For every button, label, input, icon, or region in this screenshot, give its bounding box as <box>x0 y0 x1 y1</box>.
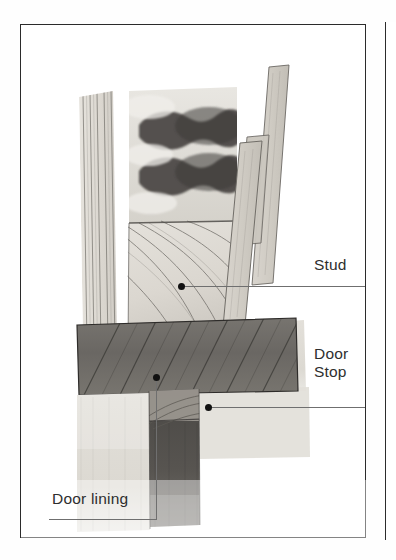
stud-leader-dot <box>178 283 185 290</box>
adjacent-page-edge <box>385 22 396 540</box>
insulation-end-grain-group <box>123 83 245 231</box>
plasterboard-layers-group <box>79 89 119 345</box>
callout-label-door-lining: Door lining <box>52 490 128 508</box>
illustration-frame <box>20 24 366 538</box>
door-lining-leader-dot <box>153 374 160 381</box>
callout-label-door-stop: Door Stop <box>314 345 348 382</box>
callout-label-stud: Stud <box>314 256 347 274</box>
door-lining-cross-section-drawing <box>21 25 367 539</box>
door-lining-leader-line-vertical <box>156 377 157 519</box>
illustration-canvas <box>21 25 367 539</box>
figure-page: Stud Door Stop Door lining <box>0 0 396 560</box>
door-stop-leader-dot <box>205 404 212 411</box>
door-stop-leader-line <box>208 407 365 408</box>
lower-right-wash <box>199 387 310 459</box>
door-lining-leader-line-horizontal <box>49 519 157 520</box>
stud-leader-line <box>181 286 365 287</box>
